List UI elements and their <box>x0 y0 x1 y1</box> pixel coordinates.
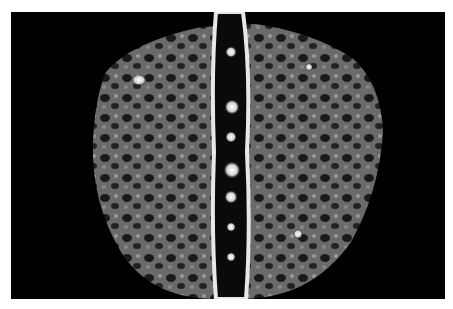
vertebra-spot <box>224 190 238 204</box>
vertebra-spot <box>225 46 237 58</box>
vertebra-spot <box>224 99 240 115</box>
vertebra-spot <box>223 161 241 179</box>
vertebra-spot <box>226 222 236 232</box>
vertebra-spot <box>226 252 236 262</box>
tissue-highlight <box>293 229 303 239</box>
tissue-highlight <box>131 74 147 86</box>
scan-image-frame <box>11 12 445 299</box>
spine-scan-image <box>11 12 445 299</box>
vertebra-spot <box>225 131 237 143</box>
tissue-highlight <box>305 63 313 71</box>
